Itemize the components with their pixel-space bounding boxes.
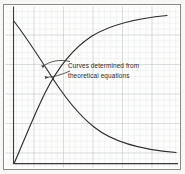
grid-area bbox=[4, 5, 180, 169]
annotation-line-2: theoretical equations bbox=[68, 71, 172, 81]
figure-root: Curves determined from theoretical equat… bbox=[0, 0, 185, 174]
figure-frame bbox=[3, 4, 181, 170]
annotation-line-1: Curves determined from bbox=[68, 61, 172, 71]
annotation-text: Curves determined from theoretical equat… bbox=[68, 61, 172, 80]
plot-svg bbox=[4, 5, 180, 169]
grid-major bbox=[6, 7, 180, 168]
